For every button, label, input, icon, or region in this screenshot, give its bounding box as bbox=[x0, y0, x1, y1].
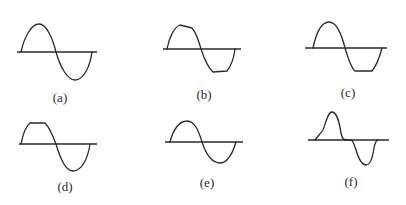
panel-b: (b) bbox=[163, 25, 241, 102]
clipped-waveform bbox=[313, 22, 382, 71]
clipped-waveform bbox=[21, 123, 90, 171]
panel-label: (a) bbox=[53, 90, 67, 105]
panel-label: (c) bbox=[341, 85, 355, 100]
crossover-distorted-waveform bbox=[315, 112, 378, 165]
panel-c: (c) bbox=[305, 22, 387, 100]
panel-label: (b) bbox=[196, 87, 211, 102]
waveform-diagram: (a) (b) (c) (d) (e) (f) bbox=[0, 0, 406, 205]
panel-f: (f) bbox=[308, 112, 389, 189]
panel-label: (f) bbox=[345, 174, 358, 189]
panel-label: (e) bbox=[200, 175, 214, 190]
panel-a: (a) bbox=[17, 24, 97, 105]
panel-d: (d) bbox=[19, 123, 97, 194]
panel-label: (d) bbox=[57, 179, 72, 194]
panel-e: (e) bbox=[165, 121, 243, 190]
